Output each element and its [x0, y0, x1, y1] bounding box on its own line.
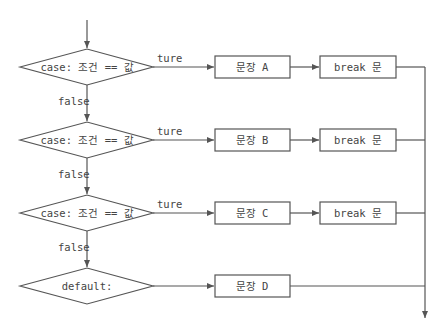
statement-label-c: 문장 C [236, 207, 269, 219]
statement-label-a: 문장 A [236, 61, 269, 73]
true-label-1: ture [157, 52, 182, 64]
break-label-3: break 문 [334, 207, 382, 219]
false-label-3: false [58, 241, 90, 253]
decision-label-1: case: 조건 == 값 [40, 61, 133, 73]
false-label-2: false [58, 168, 90, 180]
true-label-3: ture [157, 198, 182, 210]
decision-label-3: case: 조건 == 값 [40, 207, 133, 219]
decision-label-4: default: [62, 280, 113, 292]
break-label-1: break 문 [334, 61, 382, 73]
statement-label-d: 문장 D [236, 280, 269, 292]
statement-label-b: 문장 B [236, 134, 269, 146]
false-label-1: false [58, 95, 90, 107]
break-label-2: break 문 [334, 134, 382, 146]
true-label-2: ture [157, 125, 182, 137]
decision-label-2: case: 조건 == 값 [40, 134, 133, 146]
